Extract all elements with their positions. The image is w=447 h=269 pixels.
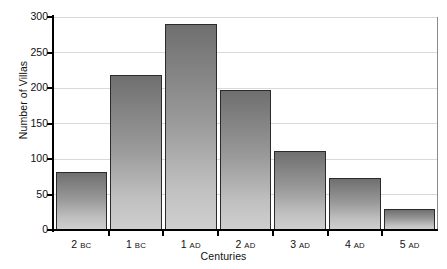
x-tick-label-number: 2 (236, 238, 245, 250)
x-tick-label-number: 3 (290, 238, 299, 250)
y-tick-label: 200 (8, 82, 48, 93)
x-tick-label-number: 2 (71, 238, 80, 250)
x-tick-label-era: AD (244, 241, 255, 250)
x-tick-mark (217, 231, 219, 236)
y-tick-label: 50 (8, 189, 48, 200)
x-tick-mark (162, 231, 164, 236)
x-tick-label-era: BC (80, 241, 91, 250)
gridline (54, 52, 437, 53)
bar (110, 75, 162, 230)
y-tick-label: 150 (8, 118, 48, 129)
x-tick-label-era: AD (408, 241, 419, 250)
bar (220, 90, 272, 230)
x-tick-mark (381, 231, 383, 236)
y-tick-label: 300 (8, 11, 48, 22)
bar (329, 178, 381, 230)
gridline (54, 17, 437, 18)
x-tick-label-number: 1 (126, 238, 135, 250)
x-axis-spine (52, 229, 438, 231)
y-tick-label: 100 (8, 153, 48, 164)
y-tick-label: 250 (8, 47, 48, 58)
bar-chart-figure: Number of Villas 050100150200250300 2 BC… (0, 0, 447, 269)
x-axis-title: Centuries (0, 250, 447, 262)
bar (165, 24, 217, 230)
bar (274, 151, 326, 230)
y-tick-label: 0 (8, 224, 48, 235)
x-tick-mark (272, 231, 274, 236)
y-axis-spine (52, 15, 54, 232)
x-tick-label: 5 AD (375, 238, 445, 250)
bar (56, 172, 108, 230)
x-tick-label-number: 1 (181, 238, 190, 250)
bar (384, 209, 436, 230)
x-tick-label-era: BC (135, 241, 146, 250)
x-tick-mark (327, 231, 329, 236)
x-tick-label-era: AD (190, 241, 201, 250)
x-tick-label-era: AD (299, 241, 310, 250)
x-tick-label-era: AD (354, 241, 365, 250)
x-tick-mark (108, 231, 110, 236)
x-tick-label-number: 4 (345, 238, 354, 250)
